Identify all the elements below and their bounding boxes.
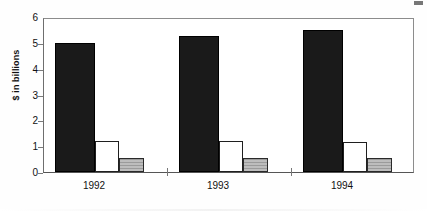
x-axis-label-1993: 1993 <box>178 180 258 191</box>
bar-1993-series-1 <box>179 36 219 172</box>
bars-container <box>44 19 413 172</box>
y-tick-label: 2 <box>16 116 38 126</box>
y-axis-tick-mark <box>38 173 43 174</box>
y-tick-label: 4 <box>16 65 38 75</box>
bar-1992-series-1 <box>55 43 95 172</box>
bar-1993-series-2 <box>219 141 243 172</box>
bar-1992-series-3 <box>119 158 144 172</box>
y-tick-label: 5 <box>16 39 38 49</box>
bar-1992-series-2 <box>95 141 119 172</box>
bar-1994-series-3 <box>367 158 392 172</box>
x-axis-tick-mark <box>167 168 168 176</box>
chart-figure: $ in billions 6 5 4 3 2 1 0 <box>0 0 427 211</box>
y-axis-tick-labels: 6 5 4 3 2 1 0 <box>12 0 38 211</box>
x-axis-label-1994: 1994 <box>302 180 382 191</box>
plot-area <box>43 18 414 173</box>
y-tick-label: 3 <box>16 91 38 101</box>
x-axis-tick-mark <box>291 168 292 176</box>
bar-1994-series-2 <box>343 142 367 172</box>
scan-edge <box>0 209 427 211</box>
bar-1994-series-1 <box>303 30 343 172</box>
x-axis-label-1992: 1992 <box>54 180 134 191</box>
y-tick-label: 1 <box>16 142 38 152</box>
y-tick-label: 6 <box>16 13 38 23</box>
bar-1993-series-3 <box>243 158 268 172</box>
scan-artifact <box>414 1 423 5</box>
y-tick-label: 0 <box>16 168 38 178</box>
